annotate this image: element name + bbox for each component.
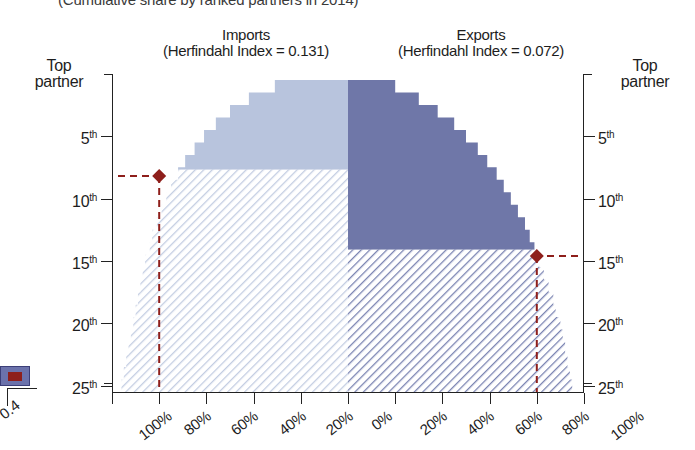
- x-tick-right-2: [442, 393, 443, 404]
- neighbor-chart-axis-top: [7, 388, 37, 389]
- x-label-right-3: 60%: [512, 408, 544, 438]
- x-tick-left-3: [254, 393, 255, 404]
- y-tick-left-25: [101, 386, 112, 387]
- neighbor-chart-swatch: [0, 366, 30, 386]
- y-tick-left-10: [101, 199, 112, 200]
- x-label-left-1: 80%: [181, 408, 213, 438]
- area-exports-below-median: [348, 250, 572, 392]
- x-label-right-4: 80%: [559, 408, 591, 438]
- panel-title-exports-subtitle: (Herfindahl Index = 0.072): [358, 43, 604, 59]
- x-tick-left-1: [159, 393, 160, 404]
- supertitle: (Cumulative share by ranked partners in …: [58, 0, 478, 8]
- y-label-right-25: 25th: [598, 377, 623, 397]
- y-label-right-20: 20th: [598, 314, 623, 334]
- y-axis-left-cap-top: [104, 74, 113, 75]
- x-label-left-2: 60%: [229, 408, 261, 438]
- y-label-left-15: 15th: [72, 252, 97, 272]
- x-tick-left-4: [301, 393, 302, 404]
- y-label-left-5: 5th: [81, 127, 97, 147]
- neighbor-chart-axis-label: 0.4: [0, 396, 23, 422]
- x-label-left-0: 100%: [136, 408, 174, 442]
- y-axis-caption-left-line2: partner: [28, 74, 90, 90]
- x-tick-left-2: [206, 393, 207, 404]
- y-label-right-15: 15th: [598, 252, 623, 272]
- x-label-right-2: 40%: [465, 408, 497, 438]
- y-axis-caption-right-line1: Top: [612, 58, 678, 74]
- y-axis-caption-left-line1: Top: [28, 58, 90, 74]
- panel-title-imports-name: Imports: [126, 27, 366, 43]
- plot-area: [112, 74, 584, 392]
- y-axis-right: 5th10th15th20th25th: [583, 74, 584, 384]
- panel-title-imports-subtitle: (Herfindahl Index = 0.131): [126, 43, 366, 59]
- panel-title-imports: Imports (Herfindahl Index = 0.131): [126, 27, 366, 59]
- y-label-left-25: 25th: [72, 377, 97, 397]
- x-axis-cap-left: [112, 384, 113, 393]
- y-axis-left: 5th10th15th20th25th: [112, 74, 113, 384]
- x-axis-cap-right: [583, 384, 584, 393]
- x-tick-left-0: [112, 393, 113, 404]
- y-tick-left-20: [101, 323, 112, 324]
- y-label-left-10: 10th: [72, 190, 97, 210]
- y-tick-right-15: [584, 261, 595, 262]
- x-label-right-1: 20%: [417, 408, 449, 438]
- area-imports-above-median: [121, 80, 348, 170]
- x-tick-left-5: [348, 393, 349, 404]
- median-marker-imports[interactable]: [152, 169, 166, 183]
- x-tick-right-3: [490, 393, 491, 404]
- x-tick-right-5: [584, 393, 585, 404]
- y-axis-right-cap-top: [583, 74, 592, 75]
- y-label-right-5: 5th: [598, 127, 614, 147]
- y-tick-right-20: [584, 323, 595, 324]
- y-tick-right-25: [584, 386, 595, 387]
- area-exports-above-median: [348, 80, 572, 250]
- chart-root: (Cumulative share by ranked partners in …: [0, 0, 695, 450]
- y-tick-right-10: [584, 199, 595, 200]
- x-label-left-3: 40%: [276, 408, 308, 438]
- y-label-left-20: 20th: [72, 314, 97, 334]
- x-label-left-5: 0%: [368, 408, 394, 433]
- x-axis: 100%80%60%40%20%0%20%40%60%80%100%: [112, 392, 584, 393]
- y-axis-right-cap-bottom: [583, 383, 592, 384]
- x-label-right-5: 100%: [608, 408, 646, 442]
- y-tick-left-5: [101, 136, 112, 137]
- y-tick-right-5: [584, 136, 595, 137]
- y-axis-caption-right: Top partner: [612, 58, 678, 90]
- y-axis-caption-right-line2: partner: [612, 74, 678, 90]
- panel-title-exports-name: Exports: [358, 27, 604, 43]
- y-label-right-10: 10th: [598, 190, 623, 210]
- x-label-left-4: 20%: [323, 408, 355, 438]
- x-tick-right-1: [395, 393, 396, 404]
- area-imports-below-median: [121, 170, 348, 392]
- y-axis-caption-left: Top partner: [28, 58, 90, 90]
- x-tick-right-4: [537, 393, 538, 404]
- plot-svg: [112, 74, 584, 392]
- panel-title-exports: Exports (Herfindahl Index = 0.072): [358, 27, 604, 59]
- y-tick-left-15: [101, 261, 112, 262]
